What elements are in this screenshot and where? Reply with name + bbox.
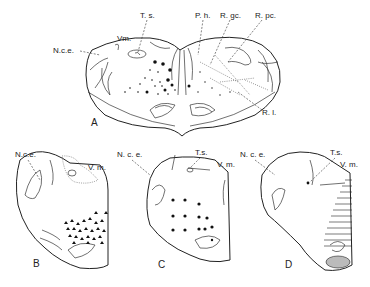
panel-b: N.c.e. V. m. B — [15, 150, 108, 269]
neuron-dots-c — [171, 198, 213, 241]
panel-a: T. s. Vm. N.c.e. P. h. R. gc. R. pc. R. … — [53, 11, 280, 136]
label-ts-c: T.s. — [195, 148, 207, 157]
label-rpc: R. pc. — [255, 11, 276, 20]
neuron-dots-a — [124, 60, 231, 96]
label-nce-d: N. c. e. — [240, 150, 265, 159]
label-nce-b: N.c.e. — [15, 150, 36, 159]
brainstem-figure: T. s. Vm. N.c.e. P. h. R. gc. R. pc. R. … — [0, 0, 370, 287]
label-rgc: R. gc. — [220, 11, 241, 20]
panel-label-d: D — [285, 259, 292, 270]
label-rl: R. l. — [262, 108, 276, 117]
label-ts-d: T.s. — [330, 148, 342, 157]
panel-label-a: A — [91, 117, 98, 128]
label-nce: N.c.e. — [53, 46, 74, 55]
panel-label-c: C — [158, 259, 165, 270]
label-ph: P. h. — [195, 11, 210, 20]
panel-d: N. c. e. T.s. V. m. D — [240, 148, 358, 270]
panel-c: N. c. e. T.s. V. m. C — [117, 148, 235, 270]
label-nce-c: N. c. e. — [117, 150, 142, 159]
panel-label-b: B — [33, 258, 40, 269]
neuron-triangles-b — [64, 211, 108, 244]
label-vm-b: V. m. — [88, 163, 106, 172]
label-vm-d: V. m. — [340, 160, 358, 169]
label-ts: T. s. — [140, 11, 155, 20]
label-vm-c: V. m. — [217, 160, 235, 169]
label-vm: Vm. — [117, 34, 131, 43]
hatch-area-d — [324, 180, 352, 246]
